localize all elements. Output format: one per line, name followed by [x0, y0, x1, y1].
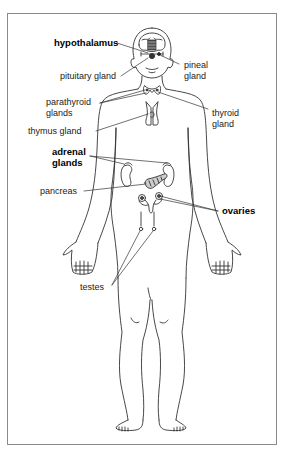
label-adrenal-glands: adrenal glands [52, 146, 86, 168]
pancreas-icon [145, 174, 167, 189]
label-pineal-gland: pineal gland [184, 60, 208, 82]
label-thyroid-gland: thyroid gland [212, 108, 239, 130]
right-hand-icon [206, 242, 241, 274]
label-pancreas: pancreas [40, 186, 77, 197]
left-kidney-adrenal-icon [121, 163, 132, 187]
label-parathyroid-glands: parathyroid glands [46, 97, 91, 119]
testes-icon [139, 212, 155, 231]
hypothalamus-gland-icon [148, 40, 156, 50]
legs-outline [118, 278, 186, 420]
label-hypothalamus: hypothalamus [54, 37, 118, 48]
left-hand-icon [63, 242, 98, 274]
label-pituitary-gland: pituitary gland [60, 71, 116, 82]
label-testes: testes [80, 282, 104, 293]
human-body-figure [0, 0, 293, 456]
body-outline [76, 76, 228, 278]
thymus-gland-icon [146, 102, 158, 125]
label-thymus-gland: thymus gland [28, 126, 82, 137]
feet-icon [116, 420, 186, 431]
label-ovaries: ovaries [222, 205, 255, 216]
ovaries-icon [139, 193, 163, 214]
